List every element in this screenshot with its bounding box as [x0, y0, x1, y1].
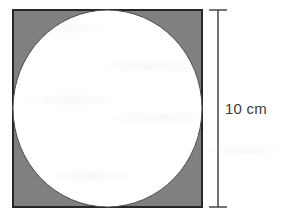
- dimension-label: 10 cm: [225, 100, 267, 118]
- inscribed-circle-shape: [13, 10, 202, 207]
